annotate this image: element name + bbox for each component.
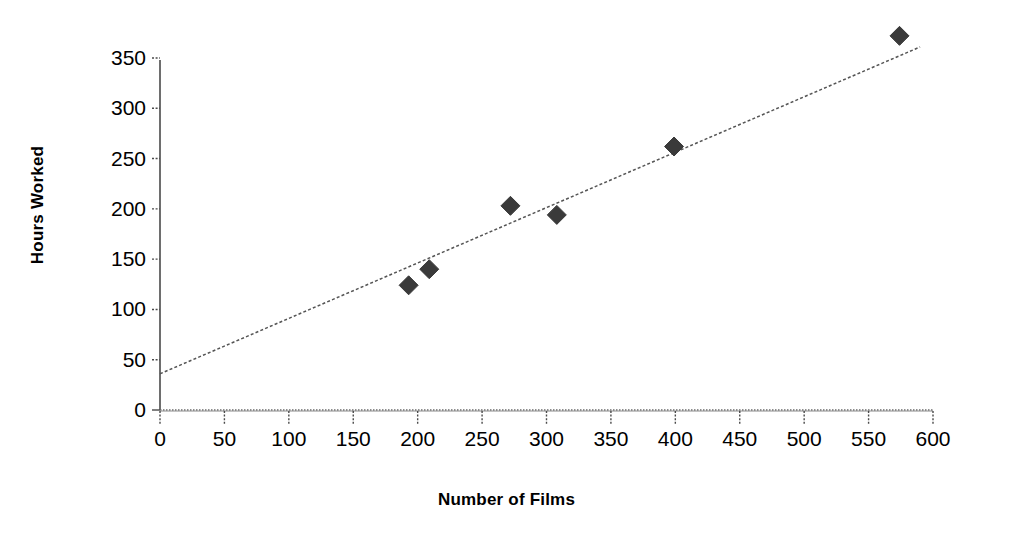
trendline-path [160,47,920,374]
x-tick-label: 200 [383,428,453,449]
data-point-marker [890,26,909,45]
tick-marks [152,58,933,424]
y-tick-label: 250 [90,148,146,169]
x-tick-label: 250 [447,428,517,449]
x-tick-label: 0 [125,428,195,449]
x-tick-label: 100 [254,428,324,449]
y-tick-label: 0 [90,399,146,420]
data-point-marker [547,205,566,224]
y-tick-label: 50 [90,349,146,370]
data-point-marker [399,276,418,295]
y-tick-label: 300 [90,97,146,118]
x-tick-label: 50 [189,428,259,449]
x-tick-label: 500 [769,428,839,449]
data-point-marker [665,137,684,156]
x-tick-label: 400 [640,428,710,449]
x-tick-label: 350 [576,428,646,449]
plot-area [0,0,1013,537]
data-point-marker [501,196,520,215]
trendline [160,47,920,374]
x-tick-label: 600 [898,428,968,449]
data-point-marker [420,260,439,279]
y-tick-label: 200 [90,198,146,219]
x-tick-label: 300 [512,428,582,449]
x-tick-label: 150 [318,428,388,449]
y-tick-label: 100 [90,298,146,319]
y-tick-label: 150 [90,248,146,269]
scatter-chart: Hours Worked Number of Films 05010015020… [0,0,1013,537]
y-tick-label: 350 [90,47,146,68]
x-tick-label: 550 [834,428,904,449]
axis-lines [160,60,933,411]
x-tick-label: 450 [705,428,775,449]
